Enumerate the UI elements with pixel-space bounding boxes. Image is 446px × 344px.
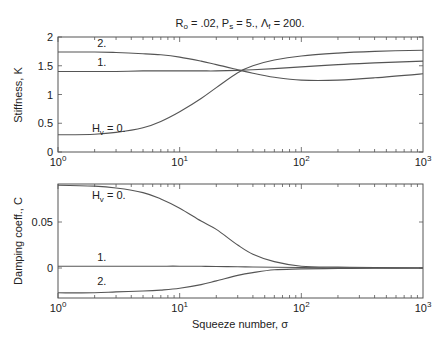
x-tick-label: 103 [415, 300, 432, 314]
x-tick-label: 103 [415, 154, 432, 168]
y-tick-label: 1.5 [38, 60, 53, 72]
series-1-label: 1. [97, 56, 106, 68]
chart-title: Ro = .02, Ps = 5., Λf = 200. [175, 17, 304, 31]
y-axis-label-damping: Damping coeff., C [12, 197, 24, 285]
y-tick-label: 2 [47, 31, 53, 43]
series-h-v-0-label: Hv = 0. [92, 189, 126, 204]
y-tick-label: 0 [47, 146, 53, 158]
series-2-line [58, 268, 423, 293]
x-tick-label: 100 [50, 300, 67, 314]
plot-frame [58, 184, 423, 298]
y-tick-label: 0.05 [32, 216, 53, 228]
series-2-line [58, 52, 423, 80]
x-tick-label: 101 [171, 154, 188, 168]
x-tick-label: 102 [293, 300, 310, 314]
y-axis-label-stiffness: Stiffness, K [12, 67, 24, 123]
x-axis-label: Squeeze number, σ [192, 318, 288, 330]
series-2-label: 2. [97, 275, 106, 287]
y-tick-label: 1 [47, 89, 53, 101]
stiffness-panel: 10010110210300.511.52Hv = 0.1.2. [38, 31, 432, 168]
x-tick-label: 101 [171, 300, 188, 314]
series-1-label: 1. [97, 251, 106, 263]
x-tick-label: 102 [293, 154, 310, 168]
chart-figure: Ro = .02, Ps = 5., Λf = 200. 10010110210… [0, 0, 446, 344]
y-tick-label: 0 [47, 262, 53, 274]
damping-panel: 10010110210300.05Hv = 0.1.2. [32, 184, 432, 314]
plot-frame [58, 37, 423, 152]
y-tick-label: 0.5 [38, 117, 53, 129]
series-2-label: 2. [97, 37, 106, 49]
